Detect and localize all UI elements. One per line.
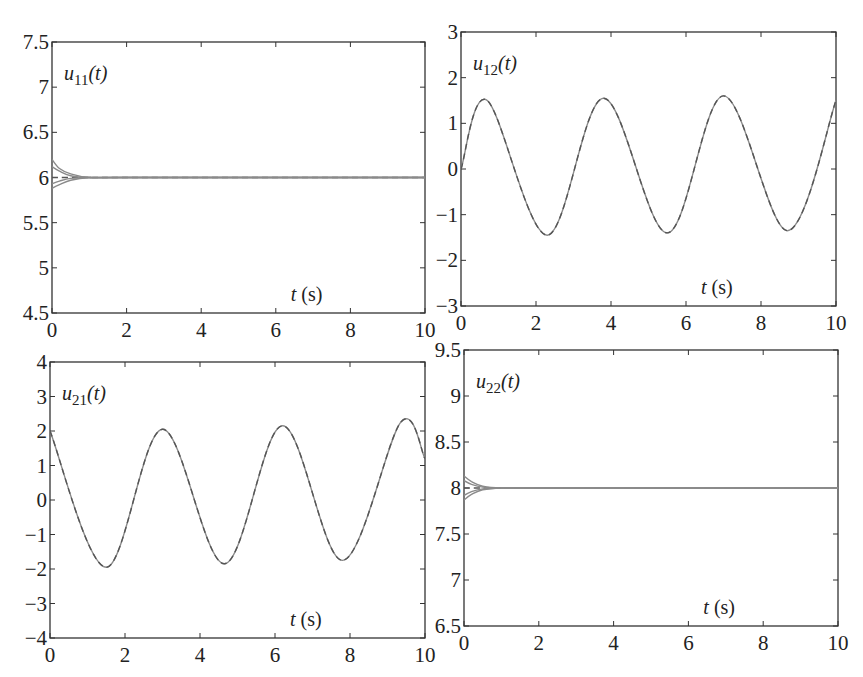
y-tick-label: 6.5 <box>435 614 461 638</box>
subplot-u11t: 02468104.555.566.577.5u11(t)t (s) <box>23 30 436 342</box>
x-tick-label: 4 <box>196 318 207 342</box>
y-tick-label: 8 <box>451 476 462 500</box>
trajectory-line <box>464 488 838 500</box>
y-tick-label: −2 <box>25 557 47 581</box>
x-tick-label: 2 <box>120 643 131 667</box>
x-tick-label: 8 <box>758 631 769 655</box>
y-tick-label: 7.5 <box>435 522 461 546</box>
y-tick-label: 3 <box>448 20 459 44</box>
x-axis-title: t (s) <box>703 596 735 619</box>
trajectory-line <box>464 488 838 495</box>
subplot-u21t: 0246810−4−3−2−101234u21(t)t (s) <box>25 350 436 667</box>
y-tick-label: 3 <box>37 385 48 409</box>
x-axis-title: t (s) <box>290 608 322 631</box>
y-tick-label: 7 <box>39 75 50 99</box>
trajectory-line <box>464 481 838 488</box>
panel-label: u12(t) <box>473 52 517 78</box>
x-tick-label: 4 <box>606 311 617 335</box>
y-tick-label: 2 <box>37 419 48 443</box>
y-tick-label: 0 <box>37 488 48 512</box>
y-tick-label: −3 <box>436 294 458 318</box>
x-axis-title: t (s) <box>701 276 733 299</box>
y-tick-label: 0 <box>448 157 459 181</box>
x-tick-label: 8 <box>345 318 356 342</box>
trajectory-line <box>52 177 425 183</box>
y-tick-label: −1 <box>25 523 47 547</box>
y-tick-label: 6 <box>39 166 50 190</box>
x-tick-label: 4 <box>608 631 619 655</box>
y-tick-label: 7 <box>451 568 462 592</box>
y-tick-label: 8.5 <box>435 430 461 454</box>
x-tick-label: 8 <box>345 643 356 667</box>
trajectory-line <box>52 177 425 188</box>
y-tick-label: −1 <box>436 203 458 227</box>
y-tick-label: 9.5 <box>435 338 461 362</box>
plot-frame <box>50 362 425 638</box>
y-tick-label: 4 <box>37 350 48 374</box>
trajectory-line <box>464 476 838 488</box>
x-tick-label: 6 <box>270 643 281 667</box>
y-tick-label: 5 <box>39 256 50 280</box>
x-tick-label: 8 <box>756 311 767 335</box>
y-tick-label: 6.5 <box>23 120 49 144</box>
x-tick-label: 2 <box>534 631 545 655</box>
plot-frame <box>461 32 836 306</box>
x-tick-label: 2 <box>121 318 132 342</box>
reference-dashed-line <box>461 96 836 235</box>
figure: 02468104.555.566.577.5u11(t)t (s)0246810… <box>0 0 863 677</box>
x-tick-label: 4 <box>195 643 206 667</box>
y-tick-label: 9 <box>451 384 462 408</box>
x-tick-label: 6 <box>271 318 282 342</box>
trajectory-line <box>52 159 425 177</box>
y-tick-label: −4 <box>25 626 48 650</box>
subplot-u22t: 02468106.577.588.599.5u22(t)t (s) <box>435 338 849 655</box>
x-tick-label: 6 <box>683 631 694 655</box>
x-tick-label: 2 <box>531 311 542 335</box>
panel-label: u21(t) <box>62 382 106 408</box>
x-axis-title: t (s) <box>291 283 323 306</box>
trajectory-line <box>461 96 836 235</box>
panel-label: u22(t) <box>476 370 520 396</box>
x-tick-label: 10 <box>415 643 436 667</box>
trajectory-line <box>52 167 425 178</box>
panel-label: u11(t) <box>64 62 108 88</box>
y-tick-label: 4.5 <box>23 301 49 325</box>
x-tick-label: 10 <box>828 631 849 655</box>
y-tick-label: −2 <box>436 248 458 272</box>
trajectory-line <box>50 419 425 568</box>
x-tick-label: 10 <box>826 311 847 335</box>
y-tick-label: 1 <box>37 454 48 478</box>
x-tick-label: 10 <box>415 318 436 342</box>
y-tick-label: 5.5 <box>23 211 49 235</box>
y-tick-label: 2 <box>448 66 459 90</box>
y-tick-label: 1 <box>448 111 459 135</box>
x-tick-label: 6 <box>681 311 692 335</box>
y-tick-label: 7.5 <box>23 30 49 54</box>
y-tick-label: −3 <box>25 592 47 616</box>
subplot-u12t: 0246810−3−2−10123u12(t)t (s) <box>436 20 847 335</box>
